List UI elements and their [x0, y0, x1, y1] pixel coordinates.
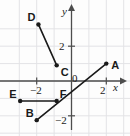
point-label-d: D [27, 12, 35, 23]
point-label-e: E [9, 89, 16, 100]
data-point-c [55, 63, 59, 67]
x-tick-label-2: 2 [100, 85, 106, 96]
point-label-b: B [26, 108, 34, 119]
y-tick-label-neg2: −2 [55, 115, 67, 126]
x-axis-label: x [113, 82, 118, 93]
y-tick-label-2: 2 [59, 41, 65, 52]
data-point-d [36, 22, 40, 26]
point-label-f: F [60, 89, 67, 100]
coordinate-plane-figure: A B C D E F x y 0 −2 2 2 −2 [0, 0, 130, 136]
data-point-a [104, 61, 108, 65]
data-point-e [18, 99, 22, 103]
data-point-b [35, 118, 39, 122]
point-label-c: C [61, 67, 69, 78]
y-axis-arrow [68, 4, 75, 11]
y-axis-label: y [62, 6, 67, 17]
data-point-f [55, 99, 59, 103]
x-tick-label-neg2: −2 [30, 85, 42, 96]
point-label-a: A [111, 60, 119, 71]
origin-tick-label: 0 [72, 73, 78, 84]
